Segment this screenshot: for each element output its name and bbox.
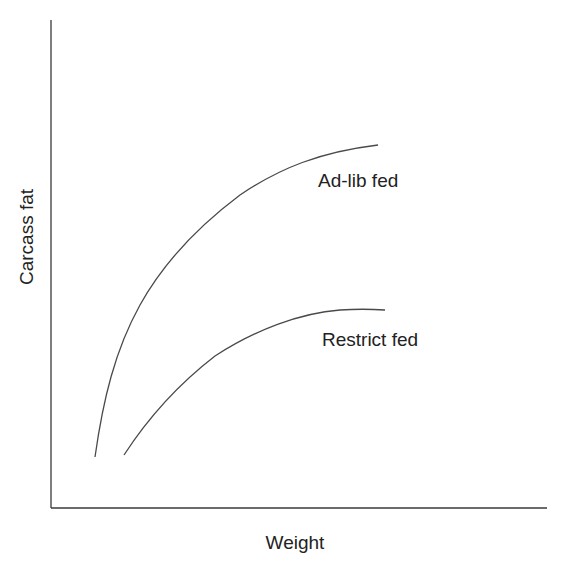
x-axis-title: Weight — [266, 532, 326, 553]
ad-lib-fed-curve — [95, 145, 378, 457]
ad-lib-fed-label: Ad-lib fed — [318, 170, 398, 191]
restrict-fed-label: Restrict fed — [322, 329, 418, 350]
carcass-fat-chart: Ad-lib fed Restrict fed Weight Carcass f… — [0, 0, 563, 569]
y-axis-title: Carcass fat — [16, 188, 37, 285]
